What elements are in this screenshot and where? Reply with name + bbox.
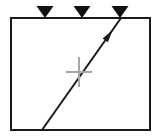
diagram-figure [0, 0, 159, 139]
diagram-canvas [0, 0, 159, 139]
